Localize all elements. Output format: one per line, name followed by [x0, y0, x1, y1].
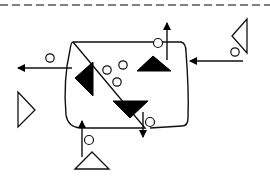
left-filled-triangle — [75, 62, 93, 96]
small-circle-2 — [119, 61, 127, 69]
left-outline-triangle — [18, 92, 35, 127]
inflow-bottom-marker-circle — [85, 136, 94, 145]
bottom-outline-triangle — [75, 152, 109, 169]
outflow-bottom-marker-circle — [146, 118, 155, 127]
outflow-left-marker-circle — [46, 54, 54, 62]
upper-filled-triangle — [137, 56, 171, 71]
flow-diagram — [0, 0, 270, 184]
small-circle-1 — [103, 66, 111, 74]
outflow-top-marker-circle — [154, 39, 163, 48]
small-circle-3 — [113, 78, 121, 86]
inflow-right-marker-circle — [231, 48, 239, 56]
